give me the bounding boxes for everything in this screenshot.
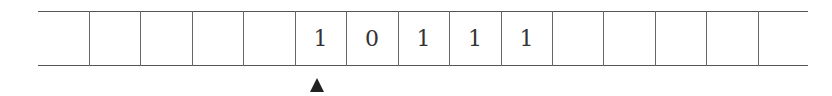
turing-tape: 1 0 1 1 1 [38,11,808,66]
tape-cell-head: 1 [295,11,346,66]
tape-cell: 1 [501,11,552,66]
tape-cell [192,11,243,66]
tape-cell [758,11,808,66]
tape-cell [243,11,295,66]
tape-head-arrow-icon [310,78,324,92]
tape-cell [603,11,655,66]
tape-cell: 1 [449,11,501,66]
tape-cell: 1 [398,11,449,66]
tape-cell [38,11,89,66]
tape-cell [89,11,140,66]
tape-cell [706,11,758,66]
tape-cell [655,11,706,66]
tape-cell [140,11,192,66]
tape-cell: 0 [346,11,398,66]
tape-cell [552,11,603,66]
